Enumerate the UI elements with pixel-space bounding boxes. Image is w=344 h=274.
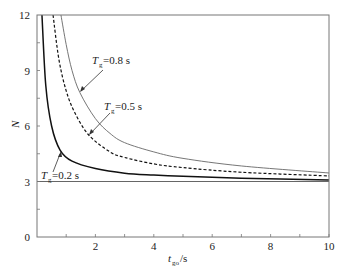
- y-tick-label: 9: [25, 65, 31, 77]
- arrow-head-icon: [80, 86, 85, 92]
- annotation-tg-0-2: T g =0.2 s: [41, 151, 79, 184]
- label-value: =0.5 s: [115, 100, 142, 112]
- label-value: =0.8 s: [103, 54, 130, 66]
- annotation-tg-0-5: T g =0.5 s: [89, 100, 142, 135]
- chart: 246810036912 T g =0.8 s T g =0.5 s: [0, 0, 344, 274]
- y-tick-label: 3: [25, 176, 31, 188]
- y-axis-label: N: [9, 120, 21, 129]
- label-value: =0.2 s: [52, 169, 79, 181]
- plot-frame: [37, 15, 329, 237]
- x-axis-label-suffix: /s: [180, 252, 187, 264]
- x-tick-label: 8: [268, 240, 274, 252]
- x-axis-label-sub: go: [172, 259, 180, 267]
- x-tick-label: 2: [93, 240, 99, 252]
- x-tick-label: 10: [324, 240, 336, 252]
- y-tick-label: 12: [19, 9, 30, 21]
- series-line-solid: [42, 15, 329, 180]
- x-axis-label: t go /s: [168, 252, 187, 267]
- plot-area: [37, 15, 329, 182]
- x-tick-label: 6: [209, 240, 215, 252]
- y-tick-label: 0: [25, 231, 31, 243]
- x-tick-label: 4: [151, 240, 157, 252]
- annotations: T g =0.8 s T g =0.5 s T g =0.2 s: [41, 54, 142, 184]
- chart-svg: 246810036912 T g =0.8 s T g =0.5 s: [0, 0, 344, 274]
- y-tick-label: 6: [25, 120, 31, 132]
- label-main: T: [92, 54, 99, 66]
- series-line-dotted: [61, 15, 329, 173]
- label-main: T: [104, 100, 111, 112]
- series-line-dashed: [53, 15, 329, 176]
- annotation-tg-0-8: T g =0.8 s: [80, 54, 130, 92]
- arrow-head-icon: [89, 129, 94, 135]
- label-main: T: [41, 169, 48, 181]
